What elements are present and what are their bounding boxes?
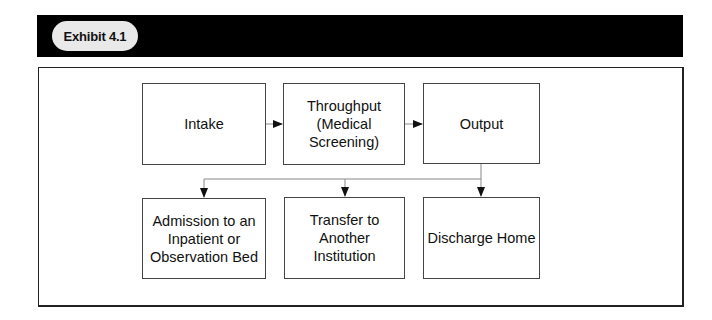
node-output: Output [423, 83, 540, 164]
node-transfer: Transfer to Another Institution [284, 197, 405, 279]
node-throughput: Throughput (Medical Screening) [283, 83, 405, 165]
node-discharge: Discharge Home [423, 197, 540, 279]
node-intake: Intake [142, 83, 266, 165]
node-admission: Admission to an Inpatient or Observation… [142, 198, 266, 279]
